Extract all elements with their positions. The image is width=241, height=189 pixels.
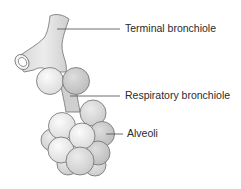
alveolus — [63, 68, 90, 95]
alveolus — [37, 68, 64, 95]
label-terminal-bronchiole: Terminal bronchiole — [125, 22, 216, 34]
label-respiratory-bronchiole: Respiratory bronchiole — [125, 89, 230, 101]
alveolus — [69, 123, 95, 149]
terminal-bronchiole-shape — [12, 15, 69, 73]
alveolus — [66, 147, 94, 175]
bronchiole-diagram: Terminal bronchiole Respiratory bronchio… — [0, 0, 241, 189]
label-alveoli: Alveoli — [127, 127, 158, 139]
